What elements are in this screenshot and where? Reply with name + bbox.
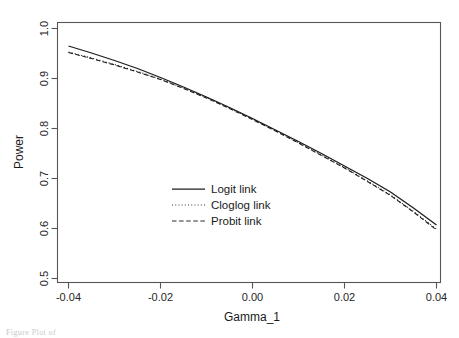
y-tick-label-0: 0.5 bbox=[38, 271, 50, 286]
x-axis-ticks bbox=[69, 283, 437, 289]
legend-label-probit-link: Probit link bbox=[211, 215, 262, 227]
y-tick-label-4: 0.9 bbox=[38, 71, 50, 86]
x-tick-label-2: 0.00 bbox=[242, 291, 263, 303]
plot-frame bbox=[58, 23, 441, 283]
x-tick-label-4: 0.04 bbox=[426, 291, 447, 303]
chart-legend: Logit linkCloglog linkProbit link bbox=[172, 183, 271, 227]
power-vs-gamma-line-chart: 1.0 0.9 0.8 0.7 0.6 0.5 Power -0.04 -0.0… bbox=[0, 0, 459, 338]
y-axis-ticks bbox=[52, 29, 58, 279]
y-axis-tick-labels: 1.0 0.9 0.8 0.7 0.6 0.5 bbox=[38, 21, 50, 286]
y-tick-label-5: 1.0 bbox=[38, 21, 50, 36]
y-tick-label-2: 0.7 bbox=[38, 171, 50, 186]
figure-container: 1.0 0.9 0.8 0.7 0.6 0.5 Power -0.04 -0.0… bbox=[0, 0, 459, 338]
x-tick-label-1: -0.02 bbox=[148, 291, 173, 303]
x-axis-title: Gamma_1 bbox=[224, 310, 280, 324]
x-tick-label-0: -0.04 bbox=[56, 291, 81, 303]
x-axis-tick-labels: -0.04 -0.02 0.00 0.02 0.04 bbox=[56, 291, 447, 303]
y-tick-label-1: 0.6 bbox=[38, 221, 50, 236]
y-tick-label-3: 0.8 bbox=[38, 121, 50, 136]
y-axis-title: Power bbox=[12, 135, 26, 169]
x-tick-label-3: 0.02 bbox=[334, 291, 355, 303]
legend-label-logit-link: Logit link bbox=[211, 183, 257, 195]
legend-label-cloglog-link: Cloglog link bbox=[211, 199, 271, 211]
